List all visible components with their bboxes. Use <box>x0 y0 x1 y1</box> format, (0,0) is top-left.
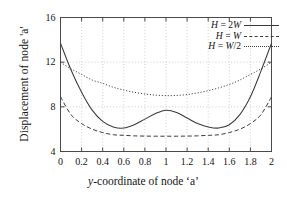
legend-item-label: H = W/2 <box>208 41 241 51</box>
legend-item-swatch <box>244 25 279 26</box>
curve-series-1 <box>61 97 272 136</box>
legend-item-swatch <box>244 36 279 37</box>
x-tick-label: 2 <box>259 157 285 167</box>
legend-item: H = W <box>189 31 279 41</box>
y-tick-label: 12 <box>34 57 56 67</box>
legend-item: H = W/2 <box>189 41 279 51</box>
legend-item: H = 2W <box>189 20 279 30</box>
legend-item-label: H = 2W <box>211 20 241 30</box>
legend-item-label: H = W <box>216 31 241 41</box>
figure-chart: Displacement of node 'a' 481216 00.20.40… <box>0 0 287 200</box>
x-axis-label-rest: -coordinate of node ‘a’ <box>93 175 199 187</box>
curve-series-0 <box>61 43 272 128</box>
legend-item-swatch <box>244 46 279 47</box>
y-tick-label: 16 <box>34 13 56 23</box>
y-tick-label: 8 <box>34 102 56 112</box>
x-axis-label: y-coordinate of node ‘a’ <box>0 175 287 187</box>
y-tick-label: 4 <box>34 147 56 157</box>
